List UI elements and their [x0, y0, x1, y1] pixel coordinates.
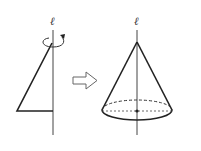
hollow-right-arrow-icon [73, 72, 97, 89]
left-figure: ℓ [17, 15, 65, 135]
right-figure: ℓ [102, 15, 172, 135]
triangle [17, 43, 53, 111]
axis-label-right: ℓ [134, 15, 139, 28]
rotation-diagram: ℓ ℓ [0, 0, 201, 151]
axis-label-left: ℓ [50, 15, 55, 28]
cone-right-edge [137, 42, 172, 110]
cone-base-center [135, 109, 138, 112]
